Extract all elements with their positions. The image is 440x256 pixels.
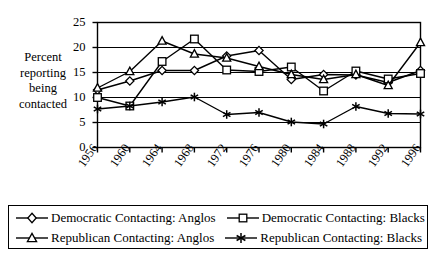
square-marker-icon — [226, 211, 260, 225]
y-tick-label: 5 — [64, 116, 86, 129]
legend-label-democratic-blacks: Democratic Contacting: Blacks — [262, 211, 425, 225]
data-point-marker — [190, 66, 198, 74]
data-point-marker — [320, 87, 328, 95]
data-point-marker — [223, 66, 231, 74]
plot-frame — [98, 23, 421, 148]
legend-item-democratic-blacks: Democratic Contacting: Blacks — [226, 211, 425, 225]
y-tick-label: 15 — [64, 66, 86, 79]
data-point-marker — [416, 38, 424, 46]
data-point-marker — [126, 77, 134, 85]
chart-legend: Democratic Contacting: Anglos Democratic… — [8, 205, 428, 249]
data-series — [93, 37, 424, 92]
asterisk-marker-icon — [224, 231, 258, 245]
legend-item-republican-blacks: Republican Contacting: Blacks — [224, 231, 422, 245]
y-tick-label: 20 — [64, 41, 86, 54]
y-tick-label: 25 — [64, 16, 86, 29]
legend-item-republican-anglos: Republican Contacting: Anglos — [15, 231, 214, 245]
data-point-marker — [158, 66, 166, 74]
data-series-layer — [93, 35, 424, 128]
plot-border — [98, 23, 421, 148]
plot-area: 0510152025 19561960196419681972197619801… — [0, 0, 440, 200]
gridlines — [98, 23, 421, 148]
legend-row-2: Republican Contacting: Anglos Republican… — [9, 227, 427, 248]
diamond-marker-icon — [15, 211, 49, 225]
triangle-marker-icon — [15, 231, 49, 245]
data-point-marker — [417, 70, 425, 78]
chart-figure: Percent reporting being contacted 051015… — [0, 0, 440, 256]
data-point-marker — [158, 58, 166, 66]
legend-label-democratic-anglos: Democratic Contacting: Anglos — [51, 211, 216, 225]
data-point-marker — [94, 94, 102, 102]
data-point-marker — [191, 35, 199, 43]
legend-item-democratic-anglos: Democratic Contacting: Anglos — [15, 211, 216, 225]
data-point-marker — [93, 84, 101, 92]
legend-label-republican-anglos: Republican Contacting: Anglos — [51, 231, 214, 245]
legend-row-1: Democratic Contacting: Anglos Democratic… — [9, 207, 427, 228]
legend-label-republican-blacks: Republican Contacting: Blacks — [260, 231, 422, 245]
y-tick-label: 10 — [64, 91, 86, 104]
data-point-marker — [158, 37, 166, 45]
